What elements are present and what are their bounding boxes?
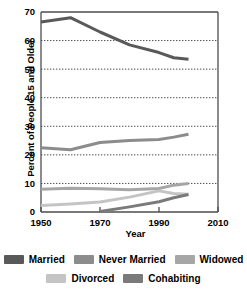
svg-text:1990: 1990 <box>148 217 169 228</box>
legend-label-married: Married <box>29 254 65 265</box>
legend-item-cohabiting: Cohabiting <box>123 273 200 284</box>
svg-text:0: 0 <box>30 206 35 217</box>
legend-label-never-married: Never Married <box>99 254 166 265</box>
legend-item-widowed: Widowed <box>175 254 244 265</box>
data-series-lines <box>41 18 189 212</box>
svg-text:10: 10 <box>24 178 35 189</box>
axis-frame <box>41 12 218 212</box>
legend-item-married: Married <box>4 254 65 265</box>
x-axis-label: Year <box>0 228 247 239</box>
series-line-widowed <box>41 183 189 189</box>
legend-label-divorced: Divorced <box>71 273 114 284</box>
x-axis-label-text: Year <box>101 228 145 239</box>
svg-text:1970: 1970 <box>89 217 110 228</box>
x-tick-labels: 1950197019902010 <box>30 217 228 228</box>
series-line-married <box>41 18 189 59</box>
svg-text:2010: 2010 <box>207 217 228 228</box>
chart-legend: Married Never Married Widowed Divorced C… <box>0 250 247 288</box>
legend-swatch-widowed <box>175 255 195 264</box>
legend-row-1: Married Never Married Widowed <box>0 250 247 269</box>
series-line-divorced <box>41 191 189 206</box>
legend-swatch-never-married <box>74 255 94 264</box>
legend-label-cohabiting: Cohabiting <box>148 273 200 284</box>
legend-row-2: Divorced Cohabiting <box>0 269 247 288</box>
legend-item-never-married: Never Married <box>74 254 166 265</box>
legend-swatch-cohabiting <box>123 274 143 283</box>
line-chart-svg: 010203040506070 1950197019902010 <box>0 0 247 240</box>
legend-swatch-divorced <box>46 274 66 283</box>
series-line-never-married <box>41 134 189 149</box>
y-axis-label: Percent of People 15 and Older <box>26 38 36 178</box>
svg-text:70: 70 <box>24 6 35 17</box>
legend-swatch-married <box>4 255 24 264</box>
chart-figure: 010203040506070 1950197019902010 Percent… <box>0 0 247 290</box>
series-line-cohabiting <box>100 195 189 212</box>
svg-text:1950: 1950 <box>30 217 51 228</box>
gridlines <box>41 41 218 184</box>
plot-area: 010203040506070 1950197019902010 Percent… <box>0 0 247 240</box>
legend-item-divorced: Divorced <box>46 273 114 284</box>
legend-label-widowed: Widowed <box>200 254 244 265</box>
